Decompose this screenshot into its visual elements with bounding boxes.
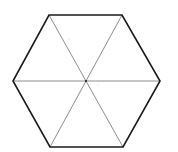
diagram-canvas bbox=[0, 0, 178, 152]
hexagon-diagram bbox=[0, 0, 178, 152]
stray-speck bbox=[98, 85, 99, 86]
stray-speck bbox=[69, 39, 70, 40]
center-point bbox=[85, 80, 87, 82]
